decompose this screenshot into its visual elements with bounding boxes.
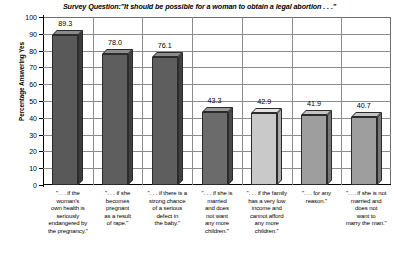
bar-front-face xyxy=(152,57,178,185)
category-label-4: ". . . if she ismarriedand doesnot wanta… xyxy=(192,190,242,236)
chart-title-suffix: . . ." xyxy=(321,2,336,11)
y-tick-label-0: 0 xyxy=(33,182,37,189)
bar-side-face xyxy=(128,49,133,185)
y-tick-label-80: 80 xyxy=(29,47,37,54)
y-tick-mark-0 xyxy=(39,185,43,186)
bar-front-face xyxy=(52,35,78,185)
bar-value-label: 40.7 xyxy=(357,101,371,110)
bar-value-label: 78.0 xyxy=(108,38,122,47)
y-tick-label-20: 20 xyxy=(29,148,37,155)
y-tick-label-30: 30 xyxy=(29,131,37,138)
category-label-5: ". . . if the familyhas a very lowincome… xyxy=(242,190,292,236)
bar-front-face xyxy=(202,112,228,185)
y-tick-label-40: 40 xyxy=(29,114,37,121)
chart-title-quote-open: "It should be possible for a woman to ob… xyxy=(121,2,276,11)
bar-side-face xyxy=(228,107,233,185)
chart-title-emphasis: legal abortion xyxy=(276,2,322,11)
survey-bar-chart: Survey Question:"It should be possible f… xyxy=(0,0,399,255)
y-tick-label-90: 90 xyxy=(29,30,37,37)
y-axis-title: Percentage Answering Yes xyxy=(18,37,25,127)
bar-value-label: 76.1 xyxy=(158,41,172,50)
x-axis-category-labels: ". . . if thewoman'sown health isserious… xyxy=(43,190,391,254)
category-label-2: ". . . if shebecomespregnantas a resulto… xyxy=(93,190,143,228)
bar-group[interactable]: 78.0 xyxy=(102,54,128,185)
category-label-6: ". . . for anyreason." xyxy=(292,190,342,205)
y-tick-label-10: 10 xyxy=(29,165,37,172)
bar-side-face xyxy=(327,110,332,185)
bar-group[interactable]: 41.9 xyxy=(301,115,327,185)
y-tick-label-70: 70 xyxy=(29,64,37,71)
bar-value-label: 42.9 xyxy=(257,97,271,106)
bar-side-face xyxy=(277,108,282,185)
category-label-7: ". . . if she is notmarried anddoes notw… xyxy=(341,190,391,228)
bar-side-face xyxy=(78,30,83,185)
bar-group[interactable]: 76.1 xyxy=(152,57,178,185)
plot-area: 1009080706050403020100 89.378.076.143.34… xyxy=(43,17,391,185)
bar-value-label: 89.3 xyxy=(58,19,72,28)
bar-front-face xyxy=(251,113,277,185)
bar-side-face xyxy=(178,52,183,185)
bar-front-face xyxy=(301,115,327,185)
chart-title: Survey Question:"It should be possible f… xyxy=(0,2,399,11)
bar-value-label: 41.9 xyxy=(307,99,321,108)
bars-layer: 89.378.076.143.342.941.940.7 xyxy=(43,17,391,185)
category-label-3: ". . . if there is astrong chanceof a se… xyxy=(142,190,192,228)
bar-group[interactable]: 42.9 xyxy=(251,113,277,185)
bar-group[interactable]: 43.3 xyxy=(202,112,228,185)
category-label-1: ". . . if thewoman'sown health isserious… xyxy=(43,190,93,236)
y-tick-label-50: 50 xyxy=(29,98,37,105)
bar-side-face xyxy=(377,112,382,185)
bar-front-face xyxy=(102,54,128,185)
bar-front-face xyxy=(351,117,377,185)
y-tick-label-100: 100 xyxy=(25,14,37,21)
bar-group[interactable]: 40.7 xyxy=(351,117,377,185)
y-tick-label-60: 60 xyxy=(29,81,37,88)
bar-group[interactable]: 89.3 xyxy=(52,35,78,185)
bar-value-label: 43.3 xyxy=(208,96,222,105)
chart-title-prefix: Survey Question: xyxy=(63,2,121,11)
